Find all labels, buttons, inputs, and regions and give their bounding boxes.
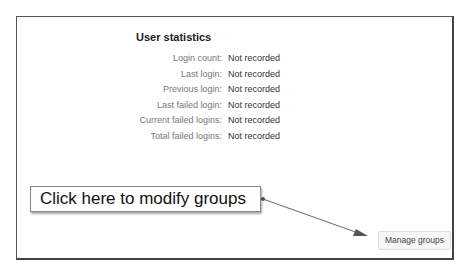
manage-groups-button[interactable]: Manage groups (378, 231, 451, 250)
annotation-callout: Click here to modify groups (30, 186, 261, 212)
